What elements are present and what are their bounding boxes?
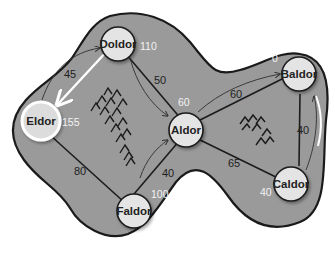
edge-weight-faldor-aldor: 40 [162, 167, 174, 179]
distance-doldor: 110 [140, 40, 157, 52]
edge-weight-eldor-doldor: 45 [64, 68, 76, 80]
node-aldor[interactable]: Aldor [169, 113, 203, 147]
distance-faldor: 100 [151, 188, 169, 200]
node-eldor[interactable]: Eldor [22, 102, 60, 140]
node-label-doldor: Doldor [99, 38, 137, 50]
distance-caldor: 40 [260, 186, 272, 198]
distance-baldor: 0 [272, 52, 278, 64]
distance-eldor: 155 [62, 116, 80, 128]
edge-weight-aldor-baldor: 60 [230, 88, 242, 100]
node-caldor[interactable]: Caldor [273, 167, 310, 201]
distance-aldor: 60 [178, 96, 190, 108]
node-label-faldor: Faldor [116, 205, 152, 217]
edge-weight-doldor-aldor: 50 [154, 74, 166, 86]
node-label-eldor: Eldor [26, 115, 56, 127]
node-label-aldor: Aldor [171, 124, 202, 136]
edge-weight-baldor-caldor: 40 [297, 124, 309, 136]
node-label-caldor: Caldor [273, 178, 310, 190]
node-baldor[interactable]: Baldor [281, 57, 318, 91]
edge-weight-eldor-faldor: 80 [74, 165, 86, 177]
graph-diagram: 45 50 80 40 60 65 40 Doldor 110 Eldor 15… [0, 0, 335, 254]
node-label-baldor: Baldor [281, 68, 318, 80]
edge-weight-aldor-caldor: 65 [228, 157, 240, 169]
node-faldor[interactable]: Faldor [116, 194, 152, 228]
